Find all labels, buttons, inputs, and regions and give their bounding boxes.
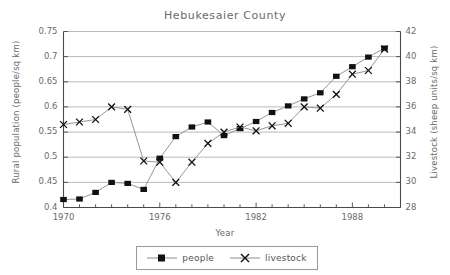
data-point-livestock <box>253 127 260 134</box>
data-point-people <box>124 181 131 186</box>
data-point-people <box>173 134 180 139</box>
legend-item-livestock: livestock <box>230 252 307 264</box>
legend-item-people: people <box>147 252 214 264</box>
data-point-livestock <box>365 67 372 74</box>
data-point-people <box>285 103 292 108</box>
chart-legend: people livestock <box>136 246 318 270</box>
data-point-people <box>92 190 99 195</box>
data-point-people <box>317 90 324 95</box>
filled-square-icon <box>147 252 177 264</box>
series-line-people <box>64 48 385 199</box>
plot-canvas <box>0 0 450 275</box>
data-point-people <box>269 110 276 115</box>
data-point-people <box>349 64 356 69</box>
series-line-livestock <box>64 49 385 182</box>
data-point-people <box>76 196 83 201</box>
data-point-people <box>365 55 372 60</box>
data-point-people <box>253 119 260 124</box>
data-point-livestock <box>205 140 212 147</box>
data-point-people <box>60 197 67 202</box>
data-point-people <box>108 180 115 185</box>
data-point-livestock <box>189 159 196 166</box>
data-point-people <box>333 74 340 79</box>
data-point-people <box>140 187 147 192</box>
data-point-people <box>205 119 212 124</box>
data-point-people <box>189 124 196 129</box>
data-point-livestock <box>349 71 356 78</box>
data-point-livestock <box>333 91 340 98</box>
legend-label-people: people <box>182 253 214 263</box>
legend-label-livestock: livestock <box>265 253 307 263</box>
data-point-people <box>301 96 308 101</box>
cross-x-icon <box>230 252 260 264</box>
chart-figure: Hebukesaier County Rural population (peo… <box>0 0 450 275</box>
